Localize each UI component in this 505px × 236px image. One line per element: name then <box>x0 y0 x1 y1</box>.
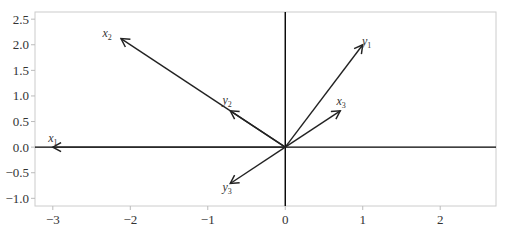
vector-arrow <box>230 147 285 183</box>
vector-y1: y1 <box>285 34 371 147</box>
x-tick-label: 0 <box>282 212 289 227</box>
vector-arrow <box>285 45 362 147</box>
y-tick-label: 0.5 <box>13 114 29 129</box>
vector-label: y3 <box>221 180 231 196</box>
y-tick-label: −0.5 <box>5 165 29 180</box>
y-tick-label: 1.5 <box>13 63 29 78</box>
y-tick-label: 2.5 <box>13 12 29 27</box>
y-tick-label: 0.0 <box>13 140 29 155</box>
x-tick-label: −1 <box>201 212 215 227</box>
x-tick-label: −3 <box>46 212 60 227</box>
vectors: x1x2x3y1y2y3 <box>47 26 371 196</box>
vector-label: x3 <box>335 94 345 110</box>
vector-chart: −3−2−1012−1.0−0.50.00.51.01.52.02.5 x1x2… <box>0 0 505 236</box>
zero-axes <box>35 12 496 206</box>
plot-border <box>35 12 496 206</box>
x-tick-label: −2 <box>123 212 137 227</box>
vector-y3: y3 <box>221 147 285 196</box>
vector-label: y1 <box>361 34 371 50</box>
y-tick-label: −1.0 <box>5 191 29 206</box>
vector-arrow <box>285 111 340 147</box>
x-tick-label: 1 <box>359 212 366 227</box>
plot-area: −3−2−1012−1.0−0.50.00.51.01.52.02.5 x1x2… <box>0 0 505 236</box>
plot-frame <box>35 12 496 206</box>
vector-label: x2 <box>101 26 111 42</box>
x-tick-label: 2 <box>437 212 444 227</box>
vector-label: y2 <box>221 93 231 109</box>
vector-x3: x3 <box>285 94 345 147</box>
vector-x1: x1 <box>47 131 285 147</box>
vector-label: x1 <box>47 131 57 147</box>
y-tick-label: 2.0 <box>13 37 29 52</box>
y-tick-label: 1.0 <box>13 88 29 103</box>
vector-y2: y2 <box>221 93 285 148</box>
axis-ticks: −3−2−1012−1.0−0.50.00.51.01.52.02.5 <box>5 12 443 227</box>
vector-arrow <box>230 111 285 147</box>
